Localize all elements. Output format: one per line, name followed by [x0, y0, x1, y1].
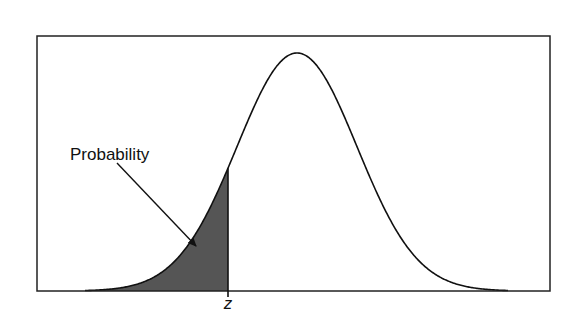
z-label: z: [223, 294, 233, 313]
probability-label: Probability: [70, 145, 150, 164]
bell-curve: [85, 53, 508, 291]
probability-arrow: [117, 163, 196, 246]
normal-distribution-diagram: Probability z: [0, 0, 585, 332]
shaded-probability-area: [85, 168, 228, 291]
